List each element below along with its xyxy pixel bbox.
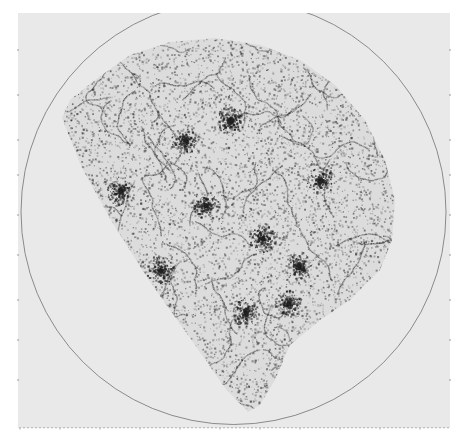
- galaxy-distribution-figure: [0, 0, 463, 443]
